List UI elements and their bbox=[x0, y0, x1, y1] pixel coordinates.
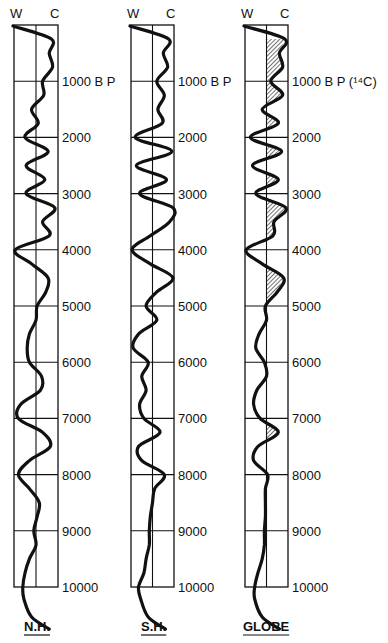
panel-label: GLOBE bbox=[243, 619, 290, 634]
tick-label: 3000 bbox=[178, 187, 207, 202]
warm-label: W bbox=[241, 6, 254, 21]
tick-label: 10000 bbox=[292, 580, 328, 595]
cold-label: C bbox=[280, 6, 289, 21]
tick-label: 9000 bbox=[178, 524, 207, 539]
tick-label: 8000 bbox=[178, 468, 207, 483]
tick-label: 9000 bbox=[292, 524, 321, 539]
tick-label: 2000 bbox=[178, 130, 207, 145]
tick-label: 5000 bbox=[62, 299, 91, 314]
cold-label: C bbox=[50, 6, 59, 21]
temperature-curve bbox=[244, 26, 287, 629]
tick-label: 9000 bbox=[62, 524, 91, 539]
climate-curves-figure: WC1000 B P200030004000500060007000800090… bbox=[0, 0, 388, 643]
tick-label: 1000 B P bbox=[178, 74, 232, 89]
warm-label: W bbox=[127, 6, 140, 21]
tick-label: 1000 B P bbox=[62, 74, 116, 89]
tick-label: 7000 bbox=[292, 411, 321, 426]
panel-sh: WC1000 B P200030004000500060007000800090… bbox=[127, 6, 232, 635]
tick-label: 6000 bbox=[62, 355, 91, 370]
panel-label: N.H. bbox=[24, 619, 50, 634]
tick-label: 3000 bbox=[292, 187, 321, 202]
tick-label: 4000 bbox=[292, 243, 321, 258]
tick-label: 2000 bbox=[292, 130, 321, 145]
tick-label: 2000 bbox=[62, 130, 91, 145]
tick-label: 5000 bbox=[292, 299, 321, 314]
tick-label: 7000 bbox=[62, 411, 91, 426]
tick-label: 4000 bbox=[178, 243, 207, 258]
tick-label: 4000 bbox=[62, 243, 91, 258]
tick-label: 8000 bbox=[292, 468, 321, 483]
tick-label: 7000 bbox=[178, 411, 207, 426]
cold-label: C bbox=[166, 6, 175, 21]
panel-globe: WC1000 B P (¹⁴C)200030004000500060007000… bbox=[241, 6, 377, 635]
tick-label: 1000 B P (¹⁴C) bbox=[292, 74, 377, 89]
warm-label: W bbox=[10, 6, 23, 21]
tick-label: 6000 bbox=[178, 355, 207, 370]
tick-label: 3000 bbox=[62, 187, 91, 202]
tick-label: 10000 bbox=[178, 580, 214, 595]
panel-label: S.H. bbox=[141, 619, 166, 634]
tick-label: 8000 bbox=[62, 468, 91, 483]
hatched-cold-region bbox=[267, 180, 286, 236]
temperature-curve bbox=[13, 26, 55, 629]
tick-label: 10000 bbox=[62, 580, 98, 595]
tick-label: 5000 bbox=[178, 299, 207, 314]
tick-label: 6000 bbox=[292, 355, 321, 370]
panel-nh: WC1000 B P200030004000500060007000800090… bbox=[10, 6, 116, 635]
